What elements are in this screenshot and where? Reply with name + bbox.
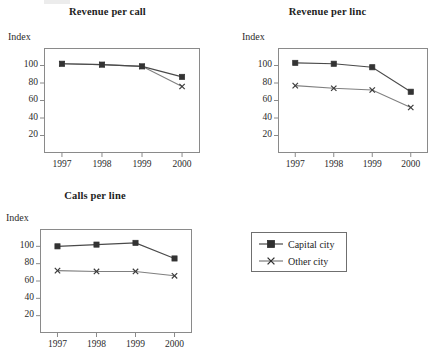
y-axis-tick-label: 40 bbox=[242, 112, 272, 122]
legend-label: Capital city bbox=[288, 239, 334, 250]
y-axis-tick-label: 80 bbox=[4, 257, 34, 267]
chart-legend: Capital city Other city bbox=[251, 232, 347, 272]
y-axis-tick-label: 60 bbox=[4, 275, 34, 285]
chart-panel-revenue-per-call: Revenue per call Index 20406080100 19971… bbox=[0, 6, 215, 186]
series-capital-city bbox=[59, 61, 184, 79]
legend-label: Other city bbox=[288, 256, 328, 267]
y-axis-tick-label: 100 bbox=[242, 59, 272, 69]
y-axis-tick-label: 100 bbox=[8, 59, 38, 69]
chart-panel-calls-per-line: Calls per line Index 20406080100 1997199… bbox=[0, 190, 205, 362]
y-axis-tick-label: 20 bbox=[242, 129, 272, 139]
y-axis-tick-label: 80 bbox=[242, 77, 272, 87]
y-axis-tick-label: 60 bbox=[8, 94, 38, 104]
y-axis-tick-label: 40 bbox=[4, 292, 34, 302]
y-axis-tick-label: 80 bbox=[8, 77, 38, 87]
series-other-city bbox=[293, 83, 414, 110]
x-axis-tick-label: 1997 bbox=[44, 159, 80, 169]
x-axis-tick-label: 1998 bbox=[84, 159, 120, 169]
y-axis-tick-label: 100 bbox=[4, 240, 34, 250]
scan-artifact bbox=[44, 0, 70, 4]
x-axis-tick-label: 2000 bbox=[164, 159, 200, 169]
x-axis-tick-label: 1999 bbox=[118, 339, 154, 349]
legend-item-capital-city: Capital city bbox=[258, 236, 334, 252]
legend-item-other-city: Other city bbox=[258, 253, 328, 269]
series-other-city bbox=[55, 268, 177, 279]
x-axis-tick-label: 1998 bbox=[78, 339, 114, 349]
x-axis-tick-label: 1999 bbox=[124, 159, 160, 169]
x-axis-tick-label: 2000 bbox=[157, 339, 193, 349]
y-axis-tick-label: 60 bbox=[242, 94, 272, 104]
y-axis-tick-label: 20 bbox=[4, 309, 34, 319]
filled-square-marker-icon bbox=[258, 238, 284, 250]
y-axis-tick-label: 20 bbox=[8, 129, 38, 139]
series-capital-city bbox=[55, 240, 177, 261]
x-axis-tick-label: 1997 bbox=[277, 159, 313, 169]
x-cross-marker-icon bbox=[258, 255, 284, 267]
chart-panel-revenue-per-line: Revenue per linc Index 20406080100 19971… bbox=[220, 6, 435, 186]
x-axis-tick-label: 1998 bbox=[316, 159, 352, 169]
y-axis-tick-label: 40 bbox=[8, 112, 38, 122]
x-axis-tick-label: 2000 bbox=[393, 159, 429, 169]
x-axis-tick-label: 1997 bbox=[39, 339, 75, 349]
x-axis-tick-label: 1999 bbox=[354, 159, 390, 169]
